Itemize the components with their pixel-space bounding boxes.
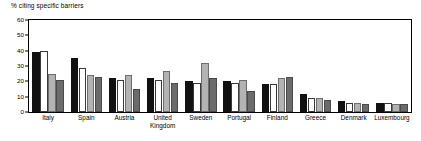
- bar: [117, 80, 124, 112]
- x-axis-labels: ItalySpainAustriaUnited KingdomSwedenPor…: [29, 114, 411, 141]
- bar: [270, 84, 277, 112]
- bar: [247, 91, 254, 112]
- bar: [400, 104, 407, 112]
- bar: [308, 98, 315, 112]
- bar: [48, 74, 55, 112]
- y-axis-tick-label: 40: [17, 48, 24, 54]
- bar-group: [71, 20, 102, 112]
- bar: [346, 103, 353, 112]
- x-axis-label: Luxembourg: [369, 114, 415, 122]
- bar: [300, 94, 307, 112]
- bar-group: [223, 20, 254, 112]
- bar: [79, 68, 86, 112]
- bar-group: [338, 20, 369, 112]
- bar: [362, 104, 369, 112]
- bar: [384, 103, 391, 112]
- bar-group: [32, 20, 63, 112]
- bar: [185, 81, 192, 112]
- bar-group: [376, 20, 407, 112]
- y-axis-tick-label: 30: [17, 63, 24, 69]
- bar: [278, 78, 285, 112]
- bar: [338, 101, 345, 112]
- chart-title: % citing specific barriers: [11, 2, 84, 9]
- y-axis-tick-label: 60: [17, 17, 24, 23]
- y-axis-tick-label: 10: [17, 94, 24, 100]
- bar: [147, 78, 154, 112]
- bar: [354, 103, 361, 112]
- bar: [239, 80, 246, 112]
- bar-group: [185, 20, 216, 112]
- bar: [133, 89, 140, 112]
- bar: [95, 77, 102, 112]
- bar: [316, 98, 323, 112]
- bar: [392, 104, 399, 112]
- bar-group: [109, 20, 140, 112]
- bar: [209, 78, 216, 112]
- bar: [223, 81, 230, 112]
- bar-group: [300, 20, 331, 112]
- bar: [171, 83, 178, 112]
- bar: [193, 83, 200, 112]
- bar: [201, 63, 208, 112]
- y-axis: 6050403020100: [0, 19, 28, 113]
- y-axis-tick-label: 20: [17, 78, 24, 84]
- bar: [87, 75, 94, 112]
- bar: [71, 58, 78, 112]
- y-axis-tick-label: 0: [21, 109, 24, 115]
- bar-group: [147, 20, 178, 112]
- bar: [376, 103, 383, 112]
- chart-page: % citing specific barriers 6050403020100…: [0, 0, 421, 141]
- bar: [262, 84, 269, 112]
- bar: [324, 100, 331, 112]
- bar: [40, 51, 47, 112]
- bar: [56, 80, 63, 112]
- bar: [109, 78, 116, 112]
- bar: [231, 83, 238, 112]
- bar: [286, 77, 293, 112]
- y-axis-tick-label: 50: [17, 32, 24, 38]
- bar: [163, 71, 170, 112]
- bar: [32, 52, 39, 112]
- bar: [125, 75, 132, 112]
- bar: [155, 80, 162, 112]
- bar-group: [262, 20, 293, 112]
- bars-layer: [29, 20, 411, 112]
